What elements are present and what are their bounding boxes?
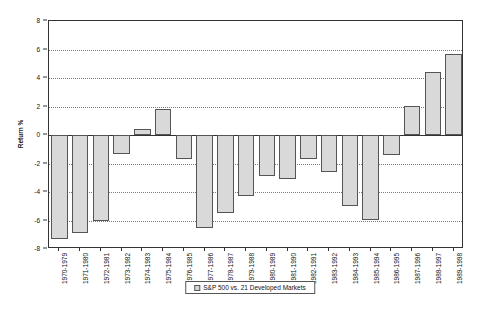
bar: [404, 106, 421, 135]
x-tick-label: 1970-1979: [61, 253, 68, 284]
bar: [113, 135, 130, 154]
x-tick-mark: [287, 248, 288, 251]
x-tick-mark: [100, 248, 101, 251]
x-tick-label: 1974-1983: [144, 253, 151, 284]
y-tick-mark: [43, 191, 47, 192]
x-tick-mark: [370, 248, 371, 251]
x-tick-mark: [266, 248, 267, 251]
x-tick-label: 1981-1990: [290, 253, 297, 284]
x-tick-mark: [307, 248, 308, 251]
x-tick-mark: [224, 248, 225, 251]
chart-container: Return % 86420-2-4-6-8 1970-19791971-198…: [0, 0, 500, 315]
y-tick-label: 4: [36, 74, 40, 81]
bar: [176, 135, 193, 159]
x-tick-mark: [141, 248, 142, 251]
x-tick-label: 1972-1981: [103, 253, 110, 284]
y-tick-label: -2: [34, 159, 40, 166]
y-tick-mark: [43, 77, 47, 78]
x-tick-mark: [390, 248, 391, 251]
x-tick-label: 1989-1998: [456, 253, 463, 284]
bar: [134, 129, 151, 135]
y-tick-mark: [43, 134, 47, 135]
bar: [445, 54, 462, 135]
bar: [93, 135, 110, 221]
x-tick-label: 1986-1995: [393, 253, 400, 284]
x-tick-mark: [79, 248, 80, 251]
x-tick-label: 1982-1991: [310, 253, 317, 284]
x-tick-label: 1988-1997: [435, 253, 442, 284]
x-tick-mark: [245, 248, 246, 251]
x-tick-label: 1978-1987: [227, 253, 234, 284]
bar: [362, 135, 379, 220]
x-tick-mark: [432, 248, 433, 251]
y-tick-label: 6: [36, 45, 40, 52]
y-tick-label: -8: [34, 245, 40, 252]
y-tick-label: 8: [36, 17, 40, 24]
bar: [196, 135, 213, 228]
bar: [279, 135, 296, 179]
x-tick-mark: [121, 248, 122, 251]
x-tick-mark: [349, 248, 350, 251]
x-tick-mark: [183, 248, 184, 251]
x-tick-label: 1977-1986: [207, 253, 214, 284]
x-tick-label: 1987-1996: [414, 253, 421, 284]
y-tick-mark: [43, 219, 47, 220]
plot-area: [48, 20, 463, 248]
y-tick-mark: [43, 105, 47, 106]
legend-label: S&P 500 vs. 21 Developed Markets: [203, 284, 306, 291]
bar: [238, 135, 255, 196]
x-tick-label: 1984-1993: [352, 253, 359, 284]
bar: [383, 135, 400, 155]
x-tick-label: 1979-1988: [248, 253, 255, 284]
bar: [342, 135, 359, 206]
x-tick-label: 1983-1992: [331, 253, 338, 284]
y-tick-mark: [43, 20, 47, 21]
legend-swatch-icon: [194, 285, 200, 291]
x-tick-label: 1980-1989: [269, 253, 276, 284]
y-tick-mark: [43, 162, 47, 163]
x-tick-mark: [411, 248, 412, 251]
x-tick-mark: [162, 248, 163, 251]
y-tick-mark: [43, 248, 47, 249]
bar: [155, 109, 172, 135]
bars-layer: [49, 21, 462, 247]
x-tick-label: 1975-1984: [165, 253, 172, 284]
y-tick-label: 0: [36, 131, 40, 138]
bar: [72, 135, 89, 233]
x-tick-label: 1976-1985: [186, 253, 193, 284]
chart-legend: S&P 500 vs. 21 Developed Markets: [185, 281, 315, 294]
y-tick-label: -4: [34, 188, 40, 195]
x-tick-label: 1971-1980: [82, 253, 89, 284]
bar: [425, 72, 442, 135]
y-axis: 86420-2-4-6-8: [0, 20, 47, 248]
bar: [217, 135, 234, 213]
x-tick-label: 1985-1994: [373, 253, 380, 284]
x-tick-mark: [328, 248, 329, 251]
x-tick-label: 1973-1982: [124, 253, 131, 284]
bar: [321, 135, 338, 172]
y-tick-label: -6: [34, 216, 40, 223]
x-tick-mark: [58, 248, 59, 251]
y-tick-label: 2: [36, 102, 40, 109]
bar: [300, 135, 317, 159]
y-tick-mark: [43, 48, 47, 49]
x-tick-mark: [453, 248, 454, 251]
bar: [259, 135, 276, 176]
bar: [51, 135, 68, 239]
x-tick-mark: [204, 248, 205, 251]
